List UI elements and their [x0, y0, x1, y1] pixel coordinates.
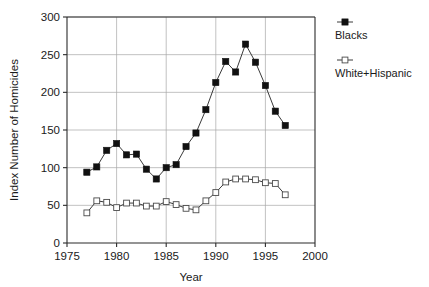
data-point-marker — [143, 203, 149, 209]
data-point-marker — [163, 199, 169, 205]
data-point-marker — [94, 164, 100, 170]
y-tick-label: 0 — [54, 237, 60, 249]
data-point-marker — [153, 203, 159, 209]
data-point-marker — [242, 41, 248, 47]
data-point-marker — [213, 79, 219, 85]
data-point-marker — [183, 205, 189, 211]
data-point-marker — [282, 192, 288, 198]
legend-marker-white-hispanic — [342, 57, 348, 63]
data-point-marker — [262, 82, 268, 88]
data-point-marker — [203, 198, 209, 204]
y-tick-label: 100 — [41, 162, 60, 174]
legend-marker-blacks — [342, 19, 348, 25]
data-point-marker — [253, 177, 259, 183]
data-point-marker — [233, 176, 239, 182]
data-point-marker — [193, 207, 199, 213]
y-tick-label: 150 — [41, 124, 60, 136]
data-point-marker — [223, 58, 229, 64]
x-tick-label: 2000 — [302, 250, 328, 262]
x-tick-label: 1975 — [54, 250, 80, 262]
data-point-marker — [124, 200, 130, 206]
y-tick-labels: 050100150200250300 — [41, 11, 60, 249]
data-point-marker — [84, 169, 90, 175]
data-point-marker — [252, 59, 258, 65]
data-point-marker — [282, 122, 288, 128]
data-series — [84, 41, 289, 216]
y-tick-label: 50 — [47, 199, 60, 211]
x-tick-label: 1985 — [153, 250, 179, 262]
data-point-marker — [223, 179, 229, 185]
x-tick-label: 1995 — [253, 250, 279, 262]
data-point-marker — [243, 176, 249, 182]
data-point-marker — [94, 198, 100, 204]
data-point-marker — [233, 69, 239, 75]
y-axis-title: Index Number of Homicides — [8, 59, 20, 201]
data-point-marker — [143, 166, 149, 172]
data-point-marker — [203, 107, 209, 113]
legend-label-white-hispanic: White+Hispanic — [335, 67, 412, 79]
y-tick-label: 200 — [41, 86, 60, 98]
data-point-marker — [173, 202, 179, 208]
x-tick-label: 1990 — [203, 250, 229, 262]
data-point-marker — [123, 152, 129, 158]
data-point-marker — [114, 205, 120, 211]
tick-marks — [63, 17, 315, 247]
y-tick-label: 300 — [41, 11, 60, 23]
data-point-marker — [114, 140, 120, 146]
y-tick-label: 250 — [41, 49, 60, 61]
data-point-marker — [193, 130, 199, 136]
x-axis-title: Year — [179, 271, 202, 283]
data-point-marker — [183, 143, 189, 149]
data-point-marker — [153, 176, 159, 182]
data-point-marker — [272, 108, 278, 114]
homicide-index-line-chart: 197519801985199019952000 050100150200250… — [0, 0, 429, 287]
x-tick-labels: 197519801985199019952000 — [54, 250, 328, 262]
legend-label-blacks: Blacks — [335, 29, 368, 41]
data-point-marker — [84, 210, 90, 216]
data-point-marker — [163, 165, 169, 171]
data-point-marker — [213, 190, 219, 196]
x-tick-label: 1980 — [104, 250, 130, 262]
data-point-marker — [272, 181, 278, 187]
data-point-marker — [104, 147, 110, 153]
chart-container: 197519801985199019952000 050100150200250… — [0, 0, 429, 287]
data-point-marker — [133, 151, 139, 157]
data-point-marker — [104, 199, 110, 205]
data-point-marker — [263, 180, 269, 186]
data-point-marker — [134, 200, 140, 206]
data-point-marker — [173, 162, 179, 168]
chart-legend: BlacksWhite+Hispanic — [335, 19, 412, 79]
